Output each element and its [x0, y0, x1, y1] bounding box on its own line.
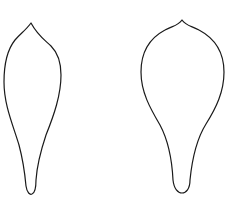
petal-outlines-figure	[0, 0, 237, 210]
narrow-petal-outline	[4, 23, 61, 194]
wide-petal-outline	[141, 20, 224, 193]
